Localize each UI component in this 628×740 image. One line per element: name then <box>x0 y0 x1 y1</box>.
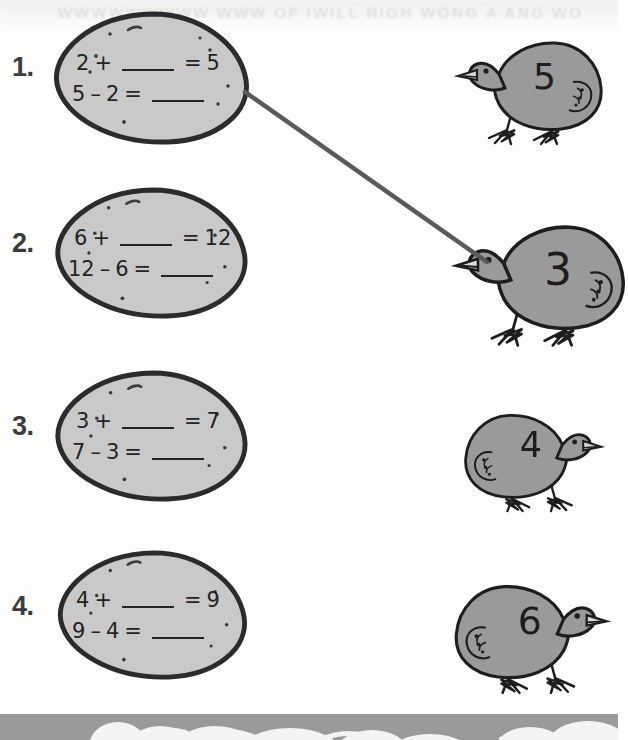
minus-sign: – <box>90 440 101 464</box>
problem-row-2: 2. 6 + = 12 <box>0 180 618 355</box>
subtrahend: 4 <box>106 619 119 643</box>
problem-number-3: 3. <box>12 411 34 442</box>
chick-4[interactable]: 4 <box>462 403 604 515</box>
equation-1-line-1: 2 + = 5 <box>50 51 250 75</box>
addend-1: 2 <box>76 51 89 75</box>
problem-row-3: 3. 3 + = 7 <box>0 363 618 538</box>
problem-number-4: 4. <box>12 591 34 622</box>
egg-2[interactable]: 6 + = 12 12 – 6 = <box>50 188 250 318</box>
chick-number: 3 <box>544 244 572 295</box>
equation-3-line-1: 3 + = 7 <box>50 409 250 433</box>
answer-blank[interactable] <box>152 85 204 102</box>
sum: 7 <box>207 409 220 433</box>
answer-blank[interactable] <box>161 260 213 277</box>
egg-1[interactable]: 2 + = 5 5 – 2 = <box>50 12 250 144</box>
answer-blank[interactable] <box>120 229 172 246</box>
minus-sign: – <box>100 257 111 281</box>
equation-3-line-2: 7 – 3 = <box>50 440 250 464</box>
equation-2-line-2: 12 – 6 = <box>50 257 250 281</box>
plus-sign: + <box>92 226 110 250</box>
equals-sign: = <box>184 409 202 433</box>
answer-blank[interactable] <box>122 591 174 608</box>
chick-3[interactable]: 3 <box>452 212 628 350</box>
equation-4-line-1: 4 + = 9 <box>52 588 250 612</box>
equation-2-line-1: 6 + = 12 <box>50 226 250 250</box>
chick-5[interactable]: 5 <box>455 30 605 148</box>
plus-sign: + <box>94 588 112 612</box>
minuend: 12 <box>68 257 95 281</box>
plus-sign: + <box>94 409 112 433</box>
chick-6[interactable]: 6 <box>452 573 610 697</box>
problem-row-4: 4. 4 + = 9 <box>0 543 618 718</box>
chick-number: 4 <box>520 425 542 465</box>
equals-sign: = <box>124 82 142 106</box>
problem-row-1: 1. 2 + = 5 <box>0 0 618 175</box>
equals-sign: = <box>182 226 200 250</box>
equals-sign: = <box>124 619 142 643</box>
addend-1: 4 <box>76 588 89 612</box>
answer-blank[interactable] <box>152 443 204 460</box>
answer-blank[interactable] <box>122 412 174 429</box>
sum: 12 <box>205 226 232 250</box>
subtrahend: 6 <box>115 257 128 281</box>
chick-number: 5 <box>533 56 556 97</box>
problem-number-1: 1. <box>12 52 34 83</box>
footer-decorative-band <box>0 714 618 740</box>
equals-sign: = <box>134 257 152 281</box>
equation-1-line-2: 5 – 2 = <box>50 82 250 106</box>
addend-1: 6 <box>74 226 87 250</box>
minuend: 7 <box>72 440 85 464</box>
subtrahend: 2 <box>106 82 119 106</box>
chick-number: 6 <box>518 599 542 643</box>
minus-sign: – <box>90 82 101 106</box>
equals-sign: = <box>124 440 142 464</box>
minus-sign: – <box>90 619 101 643</box>
answer-blank[interactable] <box>122 54 174 71</box>
plus-sign: + <box>94 51 112 75</box>
equation-4-line-2: 9 – 4 = <box>52 619 250 643</box>
equals-sign: = <box>184 51 202 75</box>
problem-number-2: 2. <box>12 228 34 259</box>
minuend: 9 <box>72 619 85 643</box>
sum: 9 <box>207 588 220 612</box>
egg-4[interactable]: 4 + = 9 9 – 4 = <box>52 551 250 679</box>
answer-blank[interactable] <box>152 622 204 639</box>
egg-3[interactable]: 3 + = 7 7 – 3 = <box>50 371 250 501</box>
subtrahend: 3 <box>106 440 119 464</box>
minuend: 5 <box>72 82 85 106</box>
addend-1: 3 <box>76 409 89 433</box>
sum: 5 <box>207 51 220 75</box>
equals-sign: = <box>184 588 202 612</box>
